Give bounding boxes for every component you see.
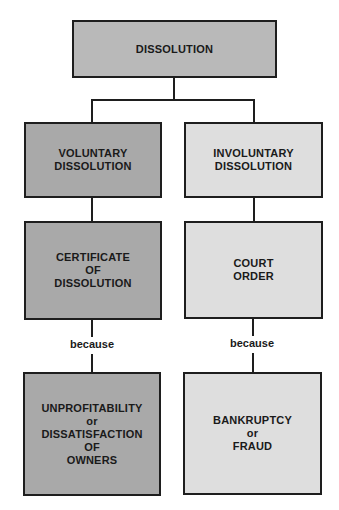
left-because-label: because xyxy=(62,338,122,350)
root-node-label: DISSOLUTION xyxy=(136,43,213,56)
bankruptcy-fraud-node: BANKRUPTCY or FRAUD xyxy=(183,372,322,495)
right-branch-connector xyxy=(253,99,255,123)
voluntary-line-2: DISSOLUTION xyxy=(54,160,131,173)
reason-line-3: DISSATISFACTION xyxy=(41,428,142,441)
left-branch-connector xyxy=(91,99,93,123)
certificate-of-dissolution-node: CERTIFICATE OF DISSOLUTION xyxy=(24,221,162,320)
voluntary-line-1: VOLUNTARY xyxy=(58,147,127,160)
certificate-line-3: DISSOLUTION xyxy=(54,277,131,290)
court-order-line-2: ORDER xyxy=(233,270,274,283)
reason-line-5: OWNERS xyxy=(67,454,118,467)
reason-line-2: or xyxy=(86,415,97,428)
root-down-connector xyxy=(173,78,175,101)
voluntary-dissolution-node: VOLUNTARY DISSOLUTION xyxy=(24,122,162,198)
court-order-line-1: COURT xyxy=(233,257,273,270)
cause-line-3: FRAUD xyxy=(233,440,273,453)
involuntary-dissolution-node: INVOLUNTARY DISSOLUTION xyxy=(184,122,323,198)
involuntary-line-1: INVOLUNTARY xyxy=(213,147,293,160)
right-because-label: because xyxy=(222,337,282,349)
involuntary-line-2: DISSOLUTION xyxy=(215,160,292,173)
right-level1-to-level2-connector xyxy=(253,198,255,222)
root-node-dissolution: DISSOLUTION xyxy=(72,20,277,78)
cause-line-1: BANKRUPTCY xyxy=(213,414,292,427)
left-because-to-level3-connector xyxy=(91,354,93,373)
reason-line-1: UNPROFITABILITY xyxy=(41,402,142,415)
cause-line-2: or xyxy=(247,427,258,440)
right-because-to-level3-connector xyxy=(252,353,254,373)
reason-line-4: OF xyxy=(84,441,100,454)
left-level1-to-level2-connector xyxy=(91,198,93,222)
certificate-line-1: CERTIFICATE xyxy=(56,251,130,264)
court-order-node: COURT ORDER xyxy=(184,221,323,319)
branch-horizontal-connector xyxy=(91,99,255,101)
certificate-line-2: OF xyxy=(85,264,101,277)
unprofitability-dissatisfaction-node: UNPROFITABILITY or DISSATISFACTION OF OW… xyxy=(23,372,161,496)
right-level2-to-because-connector xyxy=(252,319,254,336)
left-level2-to-because-connector xyxy=(91,320,93,337)
